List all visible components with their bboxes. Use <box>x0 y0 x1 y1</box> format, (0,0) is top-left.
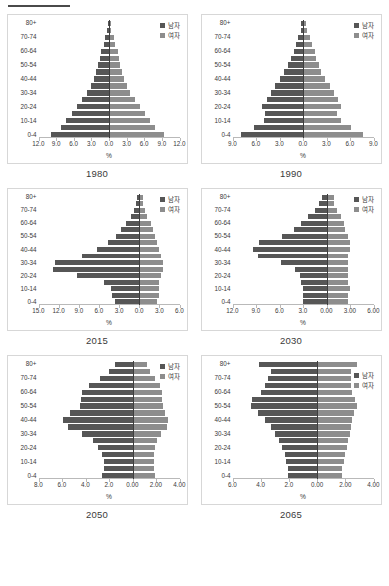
bar-row <box>233 246 374 253</box>
bar-male <box>104 280 139 285</box>
bar-male <box>252 397 317 402</box>
legend-item-female: 여자 <box>160 373 180 380</box>
bar-row <box>39 382 180 389</box>
bar-male <box>262 104 303 109</box>
chart-legend: 남자여자 <box>354 22 374 39</box>
y-tick-label: 80+ <box>220 361 231 368</box>
y-tick-label: 30-34 <box>20 90 36 97</box>
chart-legend: 남자여자 <box>160 22 180 39</box>
legend-swatch-male-icon <box>160 197 165 202</box>
x-tick-label: 6.0 <box>175 307 184 314</box>
bar-male <box>126 221 139 226</box>
bar-female <box>139 221 150 226</box>
bar-male <box>284 69 303 74</box>
x-tick-label: 12.0 <box>173 140 185 147</box>
x-axis-labels: 8.06.04.02.00.002.004.00 <box>39 479 180 491</box>
y-tick-label: 10-14 <box>214 117 230 124</box>
x-tick-label: 3.0 <box>122 140 131 147</box>
bar-row <box>233 451 374 458</box>
x-tick-label: 2.00 <box>150 481 162 488</box>
bar-female <box>317 403 356 408</box>
zero-axis-line <box>303 20 304 138</box>
bar-male <box>301 280 326 285</box>
x-axis-labels: 15.012.09.06.03.00.03.06.0 <box>39 305 180 317</box>
bar-female <box>139 293 158 298</box>
y-tick-label: 60-64 <box>20 220 36 227</box>
y-tick-label: 10-14 <box>20 117 36 124</box>
bar-female <box>317 376 351 381</box>
bar-female <box>303 42 312 47</box>
bar-female <box>317 417 352 422</box>
bar-row <box>39 227 180 234</box>
x-axis-title: % <box>233 152 374 159</box>
x-tick-label: 6.00 <box>367 307 379 314</box>
chart-panel-2065: 남자여자0-410-1420-2430-3440-4450-5460-6470-… <box>201 355 382 505</box>
plot-area: 8.06.04.02.00.002.004.00 <box>39 361 180 479</box>
bar-female <box>303 69 321 74</box>
y-axis-labels: 0-410-1420-2430-3440-4450-5460-6470-7480… <box>12 20 38 138</box>
bar-female <box>133 431 161 436</box>
y-tick-label: 70-74 <box>214 34 230 41</box>
y-tick-label: 60-64 <box>214 48 230 55</box>
bar-row <box>233 240 374 247</box>
y-tick-label: 40-44 <box>20 417 36 424</box>
x-tick-label: 9.0 <box>228 140 237 147</box>
bar-female <box>303 62 319 67</box>
x-tick-label: 2.0 <box>105 481 114 488</box>
legend-swatch-male-icon <box>160 23 165 28</box>
legend-label-female: 여자 <box>362 32 374 39</box>
bar-row <box>39 417 180 424</box>
bar-male <box>308 214 327 219</box>
bar-row <box>233 368 374 375</box>
x-tick-label: 15.0 <box>32 307 44 314</box>
legend-label-female: 여자 <box>362 382 374 389</box>
chart-cell-2015: 남자여자0-410-1420-2430-3440-4450-5460-6470-… <box>0 188 194 355</box>
x-axis-title: % <box>39 319 180 326</box>
bar-row <box>233 458 374 465</box>
chart-cell-1990: 남자여자0-410-1420-2430-3440-4450-5460-6470-… <box>194 14 388 188</box>
x-axis-labels: 12.09.06.03.00.003.006.00 <box>233 305 374 317</box>
bar-male <box>77 273 139 278</box>
x-tick-label: 3.0 <box>275 140 284 147</box>
y-tick-label: 80+ <box>26 361 37 368</box>
bar-row <box>233 430 374 437</box>
bar-row <box>39 272 180 279</box>
legend-item-female: 여자 <box>160 206 180 213</box>
x-tick-label: 3.0 <box>155 307 164 314</box>
bar-row <box>233 465 374 472</box>
bar-female <box>317 431 349 436</box>
y-tick-label: 0-4 <box>27 131 36 138</box>
x-axis-labels: 6.04.02.00.002.004.00 <box>233 479 374 491</box>
bar-female <box>133 369 151 374</box>
legend-label-female: 여자 <box>168 373 180 380</box>
bar-female <box>327 293 349 298</box>
bar-female <box>133 397 162 402</box>
bar-female <box>303 97 338 102</box>
zero-axis-line <box>317 361 318 479</box>
bar-row <box>233 361 374 368</box>
y-axis-labels: 0-410-1420-2430-3440-4450-5460-6470-7480… <box>206 194 232 305</box>
y-tick-label: 70-74 <box>214 207 230 214</box>
bar-row <box>39 361 180 368</box>
y-axis-labels: 0-410-1420-2430-3440-4450-5460-6470-7480… <box>12 361 38 479</box>
bar-female <box>109 104 140 109</box>
bar-male <box>282 234 327 239</box>
zero-axis-line <box>133 361 134 479</box>
legend-item-female: 여자 <box>160 32 180 39</box>
bar-female <box>139 273 161 278</box>
bar-male <box>82 97 109 102</box>
x-tick-label: 3.0 <box>87 140 96 147</box>
bar-female <box>327 286 351 291</box>
bar-male <box>100 56 109 61</box>
bar-row <box>233 279 374 286</box>
bar-female <box>317 383 351 388</box>
bar-row <box>233 437 374 444</box>
y-tick-label: 80+ <box>220 20 231 27</box>
x-axis-title: % <box>233 319 374 326</box>
bar-male <box>296 42 303 47</box>
legend-item-female: 여자 <box>354 32 374 39</box>
chart-legend: 남자여자 <box>354 196 374 213</box>
plot-area: 12.09.06.03.00.03.06.09.012.0 <box>39 20 180 138</box>
chart-panel-1980: 남자여자0-410-1420-2430-3440-4450-5460-6470-… <box>7 14 188 164</box>
x-tick-label: 12.0 <box>32 140 44 147</box>
